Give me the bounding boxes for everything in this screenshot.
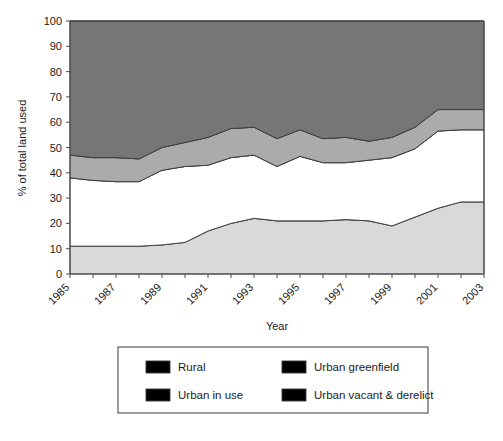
stacked-area-chart: 0102030405060708090100 19851987198919911…: [0, 0, 503, 441]
y-tick-label-40: 40: [50, 167, 62, 179]
y-tick-label-80: 80: [50, 66, 62, 78]
x-tick-label-1991: 1991: [184, 281, 210, 307]
legend-label-urban-greenfield: Urban greenfield: [314, 361, 399, 373]
x-tick-label-1997: 1997: [322, 281, 348, 307]
x-tick-label-1985: 1985: [46, 281, 72, 307]
y-tick-label-20: 20: [50, 217, 62, 229]
legend-label-urban-vacant-derelict: Urban vacant & derelict: [314, 389, 434, 401]
x-tick-label-1987: 1987: [92, 281, 118, 307]
y-tick-label-0: 0: [56, 268, 62, 280]
x-tick-label-2001: 2001: [414, 281, 440, 307]
x-tick-label-1993: 1993: [230, 281, 256, 307]
legend-label-urban-in-use: Urban in use: [178, 389, 243, 401]
y-tick-label-10: 10: [50, 243, 62, 255]
x-tick-label-2003: 2003: [460, 281, 486, 307]
legend-swatch-urban-vacant-derelict: [282, 389, 306, 401]
y-tick-label-90: 90: [50, 40, 62, 52]
legend-swatch-urban-greenfield: [282, 361, 306, 373]
x-axis-ticks: 1985198719891991199319951997199920012003: [46, 274, 486, 307]
x-tick-label-1995: 1995: [276, 281, 302, 307]
legend-border: [118, 347, 428, 413]
series-areas: [70, 21, 484, 274]
y-tick-label-70: 70: [50, 91, 62, 103]
legend-swatch-rural: [146, 361, 170, 373]
y-axis-ticks: 0102030405060708090100: [44, 15, 70, 280]
y-axis-title: % of total land used: [16, 100, 28, 197]
legend-swatch-urban-in-use: [146, 389, 170, 401]
y-tick-label-60: 60: [50, 116, 62, 128]
chart-legend: Rural Urban greenfield Urban in use Urba…: [118, 347, 434, 413]
legend-label-rural: Rural: [178, 361, 205, 373]
y-tick-label-30: 30: [50, 192, 62, 204]
x-tick-label-1989: 1989: [138, 281, 164, 307]
x-axis-title: Year: [266, 320, 289, 332]
page-footer-caption: [330, 434, 500, 440]
chart-container: 0102030405060708090100 19851987198919911…: [0, 0, 503, 441]
y-tick-label-50: 50: [50, 142, 62, 154]
x-tick-label-1999: 1999: [368, 281, 394, 307]
y-tick-label-100: 100: [44, 15, 62, 27]
